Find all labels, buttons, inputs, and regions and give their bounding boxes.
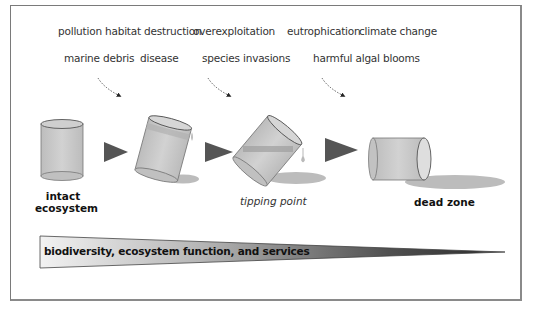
stage-label-intact-line1: intact — [35, 190, 91, 202]
dotted-arrow-icon — [98, 78, 344, 96]
stage-label-tipping-point: tipping point — [240, 195, 307, 207]
stage-label-dead-zone: dead zone — [414, 196, 475, 208]
stage-label-intact-line2: ecosystem — [35, 202, 91, 214]
tilting-cylinder-icon — [134, 113, 199, 185]
gradient-bar-label: biodiversity, ecosystem function, and se… — [44, 245, 310, 257]
diagram-artwork — [0, 0, 536, 316]
progression-arrow-icon — [104, 142, 128, 162]
stage-label-intact: intact ecosystem — [35, 190, 91, 214]
progression-arrow-icon — [325, 138, 358, 162]
progression-arrow-icon — [205, 142, 233, 162]
intact-cylinder-icon — [41, 120, 83, 181]
tipping-cylinder-icon — [230, 112, 326, 189]
fallen-cylinder-icon — [369, 138, 506, 189]
